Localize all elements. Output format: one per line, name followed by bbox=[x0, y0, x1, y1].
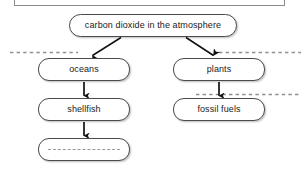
diagram-canvas: carbon dioxide in the atmosphere oceans … bbox=[0, 0, 306, 181]
node-blank-answer-box[interactable] bbox=[38, 138, 130, 161]
node-label: shellfish bbox=[67, 105, 100, 115]
node-carbon-dioxide-in-the-atmosphere[interactable]: carbon dioxide in the atmosphere bbox=[69, 14, 237, 37]
node-label: carbon dioxide in the atmosphere bbox=[85, 21, 221, 31]
node-shellfish[interactable]: shellfish bbox=[38, 98, 130, 121]
edge-co2-to-plants bbox=[186, 38, 214, 56]
edge-group bbox=[84, 38, 219, 136]
top-frame-partial bbox=[14, 0, 285, 6]
answer-rule-inside-blank bbox=[48, 149, 120, 150]
node-oceans[interactable]: oceans bbox=[38, 58, 130, 81]
node-plants[interactable]: plants bbox=[173, 58, 265, 81]
node-label: plants bbox=[207, 65, 232, 75]
edge-co2-to-oceans bbox=[93, 38, 122, 56]
node-label: oceans bbox=[69, 65, 99, 75]
node-label: fossil fuels bbox=[197, 105, 240, 115]
node-fossil-fuels[interactable]: fossil fuels bbox=[173, 98, 265, 121]
